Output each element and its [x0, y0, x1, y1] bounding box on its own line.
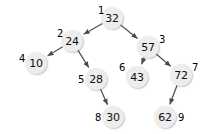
- tree-node-index-label: 1: [98, 6, 104, 16]
- tree-edge: [84, 24, 102, 34]
- tree-node[interactable]: 57: [137, 36, 159, 58]
- tree-node-index-label: 4: [19, 54, 25, 64]
- tree-node[interactable]: 24: [61, 30, 83, 52]
- tree-node[interactable]: 30: [102, 106, 124, 128]
- tree-edge: [101, 90, 108, 105]
- tree-edge: [48, 47, 62, 56]
- tree-node-index-label: 8: [95, 113, 101, 123]
- tree-node-index-label: 9: [178, 113, 184, 123]
- tree-node-value: 57: [141, 42, 155, 53]
- tree-node-value: 28: [89, 74, 103, 85]
- binary-tree-diagram: 321242573104285436727308629: [0, 0, 210, 134]
- tree-node-value: 30: [106, 112, 120, 123]
- tree-node-value: 10: [29, 58, 43, 69]
- tree-node-index-label: 6: [119, 63, 125, 73]
- tree-node-value: 32: [105, 13, 119, 24]
- tree-node-index-label: 5: [78, 75, 84, 85]
- tree-edge: [157, 54, 171, 66]
- tree-node[interactable]: 43: [126, 66, 148, 88]
- tree-edge: [142, 58, 144, 64]
- tree-edge: [121, 25, 137, 38]
- tree-node[interactable]: 72: [170, 64, 192, 86]
- tree-edge: [170, 86, 177, 104]
- tree-node-index-label: 2: [57, 29, 63, 39]
- tree-node-value: 24: [65, 36, 79, 47]
- tree-node-value: 43: [130, 72, 144, 83]
- tree-node-value: 72: [174, 70, 188, 81]
- tree-node[interactable]: 10: [25, 52, 47, 74]
- tree-node-value: 62: [158, 112, 172, 123]
- tree-node[interactable]: 62: [154, 106, 176, 128]
- tree-node-index-label: 7: [192, 63, 198, 73]
- tree-node[interactable]: 28: [85, 68, 107, 90]
- tree-node-index-label: 3: [159, 35, 165, 45]
- tree-edge: [78, 51, 88, 67]
